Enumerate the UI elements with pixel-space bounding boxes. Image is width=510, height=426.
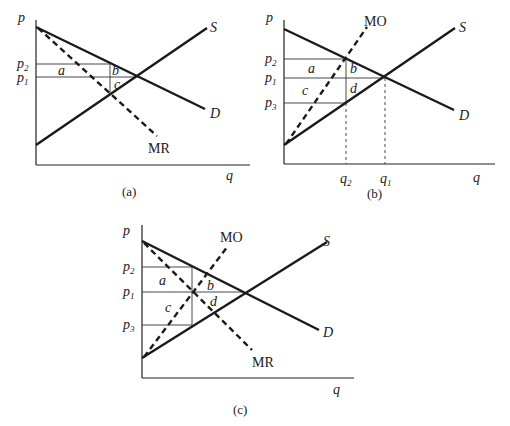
p1-label: p1	[122, 284, 135, 301]
caption-c: (c)	[233, 402, 247, 417]
area-a: a	[58, 63, 65, 78]
area-c: c	[165, 300, 172, 315]
supply-curve	[36, 28, 207, 145]
x-axis-label: q	[226, 168, 233, 183]
p3-label: p3	[264, 95, 277, 112]
y-axis-label: p	[265, 10, 273, 25]
demand-curve	[142, 241, 319, 330]
economics-diagrams: p q p2 p1 a b c S D MR (a) p q p	[0, 0, 510, 426]
area-c: c	[114, 77, 121, 92]
supply-label: S	[323, 234, 330, 249]
area-a: a	[308, 61, 315, 76]
x-axis-label: q	[333, 382, 340, 397]
area-b: b	[112, 63, 119, 78]
caption-b: (b)	[367, 186, 382, 201]
panel-b: p q p2 p1 p3 a b c d MO S D q2 q1 (b)	[264, 10, 495, 201]
panel-a: p q p2 p1 a b c S D MR (a)	[16, 10, 250, 199]
caption-a: (a)	[122, 184, 136, 199]
x-axis-label: q	[473, 170, 480, 185]
p1-label: p1	[264, 70, 277, 87]
area-a: a	[159, 273, 166, 288]
area-b: b	[350, 61, 357, 76]
area-c: c	[302, 83, 309, 98]
demand-label: D	[458, 108, 469, 123]
mo-label: MO	[220, 230, 243, 245]
supply-label: S	[459, 20, 466, 35]
panel-c: p q p2 p1 p3 a b c d MO S D MR (c)	[122, 223, 354, 417]
y-axis-label: p	[17, 10, 25, 25]
p2-label: p2	[122, 259, 135, 276]
q2-label: q2	[340, 171, 352, 188]
supply-curve	[284, 28, 455, 145]
mr-label: MR	[252, 355, 274, 370]
demand-label: D	[209, 106, 220, 121]
area-d: d	[210, 294, 218, 309]
mr-curve	[38, 28, 157, 136]
p3-label: p3	[122, 317, 135, 334]
y-axis-label: p	[122, 223, 130, 238]
area-d: d	[350, 81, 358, 96]
demand-label: D	[322, 325, 333, 340]
p2-label: p2	[264, 51, 277, 68]
supply-label: S	[210, 20, 217, 35]
mr-label: MR	[148, 141, 170, 156]
mr-curve	[144, 243, 252, 350]
mo-label: MO	[364, 14, 387, 29]
area-b: b	[207, 278, 214, 293]
